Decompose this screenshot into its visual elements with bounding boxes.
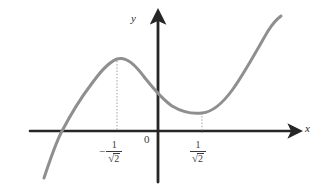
fraction-numerator: 1 [110, 140, 119, 151]
x-tick-label-negative: − 1 √ 2 [99, 140, 122, 165]
graph-figure: y x 0 − 1 √ 2 1 √ 2 [0, 0, 322, 189]
radicand: 2 [197, 153, 204, 165]
plot-canvas [0, 0, 322, 189]
y-axis-label: y [131, 12, 136, 24]
radicand: 2 [113, 153, 120, 165]
fraction-negative: 1 √ 2 [106, 140, 122, 165]
fraction-positive: 1 √ 2 [190, 140, 206, 165]
origin-label: 0 [144, 133, 150, 145]
fraction-denominator: √ 2 [106, 152, 122, 165]
curve-path [44, 16, 281, 178]
x-axis-label: x [305, 122, 310, 134]
x-tick-label-positive: 1 √ 2 [190, 140, 206, 165]
radical-icon: √ 2 [108, 153, 120, 165]
radical-icon: √ 2 [192, 153, 204, 165]
fraction-denominator: √ 2 [190, 152, 206, 165]
minus-sign: − [99, 146, 105, 158]
fraction-numerator: 1 [194, 140, 203, 151]
